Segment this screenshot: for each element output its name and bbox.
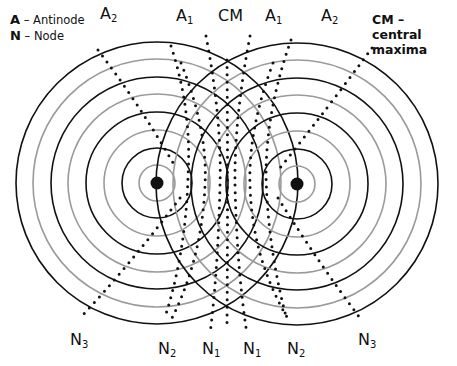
top-label-a2: A2 (321, 8, 338, 29)
legend-item-antinode: A – Antinode (10, 12, 85, 28)
legend-item-node: N – Node (10, 28, 85, 44)
top-label-a2: A2 (100, 6, 117, 27)
antinode-line-a1-left (166, 46, 189, 314)
top-label-a1: A1 (176, 8, 193, 29)
right-source-dot (291, 178, 304, 191)
bottom-label-n3: N3 (70, 332, 88, 353)
legend-cm: CM – central maxima (372, 12, 457, 57)
bottom-label-n3: N3 (358, 332, 376, 353)
bottom-label-n2: N2 (158, 341, 176, 362)
top-label-a1: A1 (265, 8, 282, 29)
bottom-label-n1: N1 (243, 341, 261, 362)
bottom-label-n1: N1 (202, 341, 220, 362)
left-source-dot (151, 177, 164, 190)
legend: A – Antinode N – Node (10, 12, 85, 44)
node-line-n1-right (235, 36, 250, 334)
bottom-label-n2: N2 (287, 341, 305, 362)
top-label-cm: CM (218, 8, 243, 24)
